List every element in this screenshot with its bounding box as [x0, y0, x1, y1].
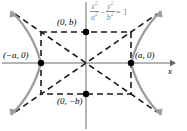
label-vertex-left: (−a, 0) [3, 51, 29, 60]
label-co-vertex-bottom: (0, −b) [57, 97, 83, 106]
equation-minus-sign: − [100, 7, 105, 17]
co-vertex-top-point [83, 29, 89, 35]
label-co-vertex-top: (0, b) [57, 18, 77, 27]
equation-equals-one: = 1 [116, 7, 128, 17]
vertex-left-point [38, 60, 44, 66]
co-vertex-bottom-point [83, 91, 89, 97]
label-x-axis: x [168, 67, 172, 76]
hyperbola-equation: x2 a2 − y2 b2 = 1 [89, 1, 127, 22]
equation-y-term: y2 b2 [106, 1, 115, 22]
hyperbola-figure: x2 a2 − y2 b2 = 1 (0, b) (0, −b) (−a, 0)… [0, 0, 187, 131]
vertex-right-point [128, 60, 134, 66]
label-vertex-right: (a, 0) [135, 51, 155, 60]
equation-x-denominator: a2 [90, 12, 99, 22]
equation-y-denominator: b2 [106, 12, 115, 22]
equation-x-term: x2 a2 [90, 1, 99, 22]
